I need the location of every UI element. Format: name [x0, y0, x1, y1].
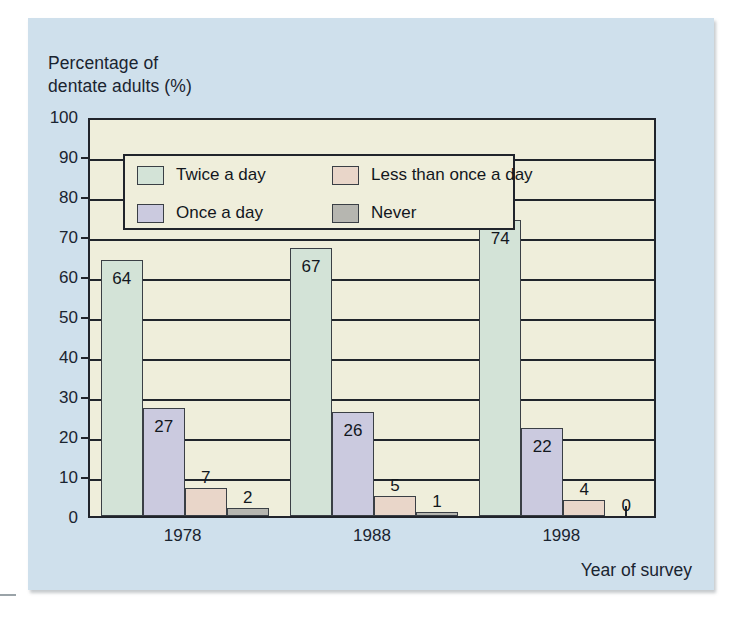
chart-panel: Percentage of dentate adults (%) 6427726…: [28, 18, 714, 590]
bar: [563, 500, 605, 516]
x-axis-tick-label: 1998: [542, 526, 580, 546]
bar-value-label: 64: [112, 269, 131, 289]
legend-item: Once a day: [125, 203, 320, 223]
bar-value-label: 1: [432, 492, 441, 512]
x-axis-title: Year of survey: [581, 560, 692, 581]
y-axis-tick-mark: [81, 277, 88, 279]
bar-value-label: 26: [344, 421, 363, 441]
bar-value-label: 4: [580, 480, 589, 500]
y-axis-tick-label: 30: [34, 388, 78, 408]
figure: Percentage of dentate adults (%) 6427726…: [0, 0, 736, 636]
y-axis-tick-mark: [81, 317, 88, 319]
y-axis-tick-mark: [81, 397, 88, 399]
y-axis-tick-mark: [81, 477, 88, 479]
y-axis-tick-mark: [81, 197, 88, 199]
bar-value-label: 5: [390, 476, 399, 496]
bar: [290, 248, 332, 516]
bar: [185, 488, 227, 516]
bar: [101, 260, 143, 516]
bar-value-label: 0: [622, 496, 631, 516]
x-axis-tick-label: 1988: [353, 526, 391, 546]
y-axis-tick-label: 50: [34, 308, 78, 328]
left-margin-rule: [0, 594, 16, 596]
legend-swatch: [332, 204, 359, 223]
y-axis-tick-label: 40: [34, 348, 78, 368]
bar-value-label: 67: [302, 257, 321, 277]
bar-value-label: 2: [243, 488, 252, 508]
bar-value-label: 27: [154, 417, 173, 437]
legend: Twice a dayLess than once a dayOnce a da…: [123, 154, 515, 230]
legend-label: Once a day: [176, 203, 263, 223]
y-axis-tick-label: 0: [34, 508, 78, 528]
y-axis-tick-label: 90: [34, 148, 78, 168]
legend-swatch: [137, 204, 164, 223]
y-axis-tick-mark: [81, 237, 88, 239]
legend-item: Less than once a day: [320, 165, 517, 185]
legend-swatch: [332, 166, 359, 185]
bar: [416, 512, 458, 516]
legend-label: Less than once a day: [371, 165, 533, 185]
legend-label: Twice a day: [176, 165, 266, 185]
y-axis-tick-label: 60: [34, 268, 78, 288]
y-axis-tick-label: 80: [34, 188, 78, 208]
bar-value-label: 7: [201, 468, 210, 488]
bar: [374, 496, 416, 516]
bar: [227, 508, 269, 516]
y-axis-tick-label: 20: [34, 428, 78, 448]
legend-item: Never: [320, 203, 517, 223]
y-axis-tick-mark: [81, 437, 88, 439]
legend-label: Never: [371, 203, 416, 223]
y-axis-tick-mark: [81, 357, 88, 359]
bar-value-label: 22: [533, 437, 552, 457]
y-axis-tick-label: 70: [34, 228, 78, 248]
legend-item: Twice a day: [125, 165, 320, 185]
y-axis-tick-mark: [81, 157, 88, 159]
legend-swatch: [137, 166, 164, 185]
y-axis-tick-label: 10: [34, 468, 78, 488]
bar-value-label: 74: [491, 229, 510, 249]
y-axis-title-line2: dentate adults (%): [48, 75, 308, 98]
bar: [479, 220, 521, 516]
y-axis-tick-label: 100: [34, 108, 78, 128]
x-axis-tick-label: 1978: [164, 526, 202, 546]
y-axis-title-line1: Percentage of: [48, 52, 308, 75]
y-axis-title: Percentage of dentate adults (%): [48, 52, 308, 98]
